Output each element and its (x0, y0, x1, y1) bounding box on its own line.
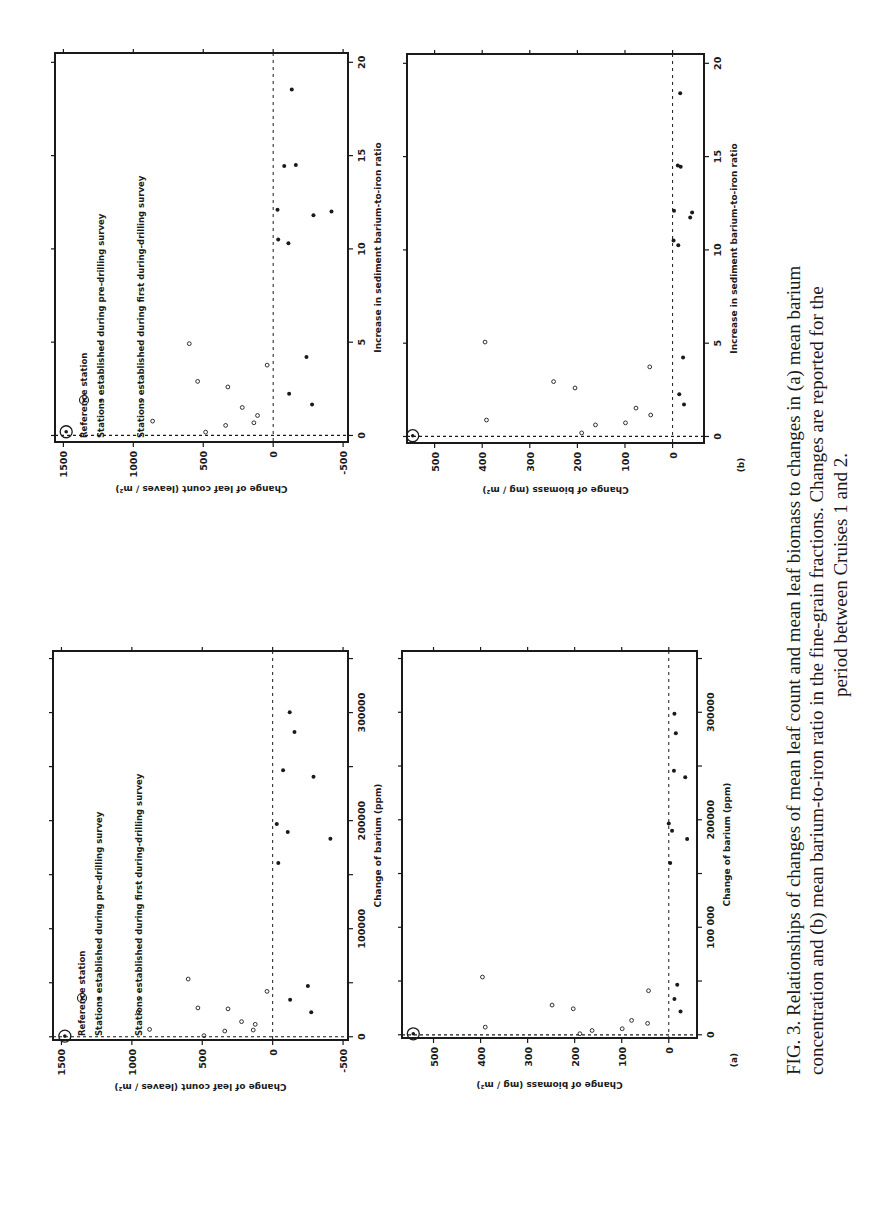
data-point (286, 241, 290, 245)
caption-line-3: period between Cruises 1 and 2. (830, 453, 851, 697)
x-tick-label: 15 (356, 149, 367, 162)
data-point (275, 822, 279, 826)
data-point (294, 163, 298, 167)
data-point (256, 414, 260, 418)
y-axis-title: Change of biomass (mg / m²) (476, 1080, 622, 1090)
data-point (148, 1028, 152, 1032)
data-point (310, 402, 314, 406)
data-point (281, 768, 285, 772)
data-point (590, 1029, 594, 1033)
y-tick-label: 0 (268, 451, 279, 458)
x-tick-label: 200000 (705, 800, 716, 840)
y-tick-label: 400 (477, 452, 488, 472)
legend-item-label: Reference station (79, 353, 89, 438)
data-point (580, 431, 584, 435)
data-point (648, 365, 652, 369)
data-point (552, 380, 556, 384)
y-tick-label: 0 (268, 1049, 279, 1056)
data-point (578, 1032, 582, 1036)
data-point (286, 830, 290, 834)
x-tick-label: 100 000 (705, 905, 716, 948)
data-point (251, 1028, 255, 1032)
data-point (679, 1009, 683, 1013)
series-open (151, 342, 269, 434)
data-point (672, 997, 676, 1001)
x-tick-label: 20 (712, 56, 723, 70)
data-point (186, 977, 190, 981)
data-point (292, 730, 296, 734)
chart-leaf-vs-ratio: 150010005000-50005101520Change of leaf c… (51, 49, 383, 494)
x-tick-label: 0 (356, 432, 367, 439)
data-point (309, 1010, 313, 1014)
data-point (485, 418, 489, 422)
series-open (483, 340, 652, 435)
panel-label: (b) (736, 458, 746, 473)
x-tick-label: 5 (712, 340, 723, 347)
legend-item-label: Stations established during first during… (134, 773, 144, 1036)
legend-item-label: Stations established during pre-drilling… (94, 811, 104, 1036)
x-tick-label: 0 (712, 433, 723, 440)
data-point (670, 829, 674, 833)
series-open (136, 977, 269, 1037)
y-tick-label: 200 (570, 1047, 581, 1067)
data-point (573, 386, 577, 390)
data-point (312, 775, 316, 779)
data-point (226, 385, 230, 389)
data-point (668, 861, 672, 865)
data-point (594, 423, 598, 427)
legend: Reference stationStations established du… (79, 175, 146, 438)
x-tick-label: 200000 (356, 800, 367, 840)
x-tick-label: 0 (356, 1033, 367, 1040)
data-point (304, 355, 308, 359)
y-tick-label: 300 (523, 1047, 534, 1067)
data-point (265, 989, 269, 993)
y-tick-label: 100 (620, 452, 631, 472)
data-point (240, 406, 244, 410)
y-tick-label: 1000 (128, 451, 139, 478)
data-point (624, 421, 628, 425)
data-point (678, 91, 682, 95)
data-point (672, 239, 676, 243)
data-point (196, 379, 200, 383)
data-point (276, 238, 280, 242)
data-point (226, 1007, 230, 1011)
data-point (667, 822, 671, 826)
series-filled (667, 712, 689, 1014)
data-point (287, 392, 291, 396)
data-point (672, 769, 676, 773)
x-tick-label: 15 (712, 150, 723, 163)
chart-leaf-vs-barium: 150010005000-5000100000200000300000Chang… (49, 647, 383, 1092)
data-point (630, 1018, 634, 1022)
data-point (675, 983, 679, 987)
x-tick-label: 300000 (356, 692, 367, 732)
y-tick-label: 1500 (58, 451, 69, 478)
data-point (634, 406, 638, 410)
series-filled (275, 710, 333, 1014)
data-point (481, 975, 485, 979)
data-point (311, 213, 315, 217)
data-point (550, 1003, 554, 1007)
figure-caption: FIG. 3. Relationships of changes of mean… (783, 265, 851, 1075)
data-point (683, 775, 687, 779)
series-circled-dot (407, 430, 419, 442)
data-point (646, 1021, 650, 1025)
legend-item-label: Stations established during pre-drilling… (96, 213, 106, 438)
chart-biomass-vs-barium: 50040030020010000100 000200000300000Chan… (398, 647, 739, 1090)
panel-label: (a) (729, 1053, 739, 1067)
data-point (679, 165, 683, 169)
x-axis-title: Change of barium (ppm) (373, 784, 383, 908)
data-point (620, 1027, 624, 1031)
x-tick-label: 0 (705, 1031, 716, 1038)
data-point (681, 356, 685, 360)
data-point (252, 421, 256, 425)
y-axis-title: Change of biomass (mg / m²) (482, 485, 628, 495)
data-point (276, 861, 280, 865)
data-point (253, 1022, 257, 1026)
x-tick-label: 20 (356, 55, 367, 69)
data-point (676, 243, 680, 247)
data-point (571, 1007, 575, 1011)
data-point (204, 430, 208, 434)
x-axis-title: Increase in sediment barium-to-iron rati… (729, 143, 739, 353)
y-tick-label: 200 (572, 452, 583, 472)
x-axis-title: Increase in sediment barium-to-iron rati… (373, 142, 383, 352)
